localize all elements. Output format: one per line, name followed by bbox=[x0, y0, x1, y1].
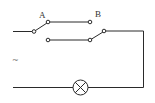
switch-a-pivot bbox=[32, 30, 36, 34]
switch-a-upper-contact bbox=[46, 20, 50, 24]
switch-b: B bbox=[88, 9, 106, 42]
switch-a-blade bbox=[34, 23, 47, 32]
switch-b-label: B bbox=[95, 9, 101, 19]
switch-a-lower-contact bbox=[46, 38, 50, 42]
return-wire bbox=[88, 31, 144, 88]
switch-a: A bbox=[32, 10, 50, 42]
switch-b-lower-contact bbox=[88, 38, 92, 42]
lamp-icon bbox=[73, 80, 88, 95]
ac-source-symbol: ~ bbox=[12, 56, 19, 65]
switch-b-pivot bbox=[102, 29, 106, 33]
switch-b-upper-contact bbox=[88, 20, 92, 24]
switch-a-label: A bbox=[39, 10, 46, 20]
circuit-diagram: A B ~ bbox=[0, 0, 155, 103]
